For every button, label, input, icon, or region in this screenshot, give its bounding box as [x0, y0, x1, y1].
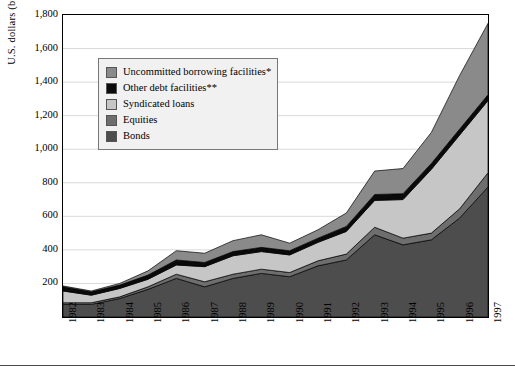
- x-axis-tick-labels: 1982198319841985198619871988198919901991…: [62, 320, 489, 366]
- x-tick-1994: 1994: [407, 277, 418, 323]
- x-tick-1989: 1989: [265, 277, 276, 323]
- x-tick-1984: 1984: [124, 277, 135, 323]
- legend-swatch-icon: [106, 131, 117, 142]
- x-tick-1996: 1996: [464, 277, 475, 323]
- y-tick-1800: 1,800: [18, 9, 58, 19]
- x-tick-1990: 1990: [294, 277, 305, 323]
- y-tick-400: 400: [18, 244, 58, 254]
- chart-legend: Uncommitted borrowing facilities*Other d…: [98, 58, 278, 150]
- legend-swatch-icon: [106, 67, 117, 78]
- x-tick-1985: 1985: [152, 277, 163, 323]
- x-tick-1983: 1983: [95, 277, 106, 323]
- legend-swatch-icon: [106, 83, 117, 94]
- legend-item-label: Other debt facilities**: [123, 82, 217, 94]
- legend-swatch-icon: [106, 99, 117, 110]
- chart-figure: U.S. dollars (billions) 1,8001,6001,4001…: [0, 0, 515, 375]
- y-axis-tick-labels: 1,8001,6001,4001,2001,000800600400200: [16, 0, 58, 330]
- y-tick-1000: 1,000: [18, 143, 58, 153]
- legend-item-other-debt-facilities: Other debt facilities**: [106, 80, 271, 96]
- legend-swatch-icon: [106, 115, 117, 126]
- y-tick-600: 600: [18, 210, 58, 220]
- x-tick-1993: 1993: [379, 277, 390, 323]
- x-tick-1997: 1997: [492, 277, 503, 323]
- footer-divider: [0, 365, 515, 366]
- legend-item-label: Bonds: [123, 130, 150, 142]
- x-tick-1986: 1986: [180, 277, 191, 323]
- y-tick-800: 800: [18, 177, 58, 187]
- legend-item-label: Equities: [123, 114, 157, 126]
- x-tick-1982: 1982: [67, 277, 78, 323]
- legend-item-uncommitted-borrowing-facilities: Uncommitted borrowing facilities*: [106, 64, 271, 80]
- legend-item-label: Syndicated loans: [123, 98, 194, 110]
- x-tick-1995: 1995: [435, 277, 446, 323]
- y-tick-1400: 1,400: [18, 76, 58, 86]
- x-tick-1988: 1988: [237, 277, 248, 323]
- legend-item-label: Uncommitted borrowing facilities*: [123, 66, 271, 78]
- x-tick-1992: 1992: [350, 277, 361, 323]
- y-tick-1600: 1,600: [18, 43, 58, 53]
- legend-item-bonds: Bonds: [106, 128, 271, 144]
- x-tick-1991: 1991: [322, 277, 333, 323]
- y-tick-200: 200: [18, 277, 58, 287]
- legend-item-equities: Equities: [106, 112, 271, 128]
- x-tick-1987: 1987: [209, 277, 220, 323]
- y-tick-1200: 1,200: [18, 110, 58, 120]
- legend-item-syndicated-loans: Syndicated loans: [106, 96, 271, 112]
